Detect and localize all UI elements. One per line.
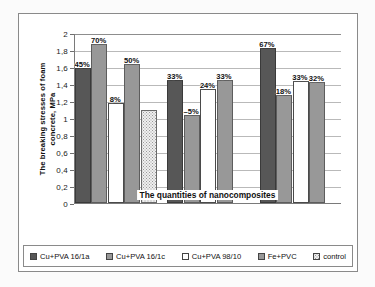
bar	[200, 89, 216, 203]
bar-value-label: 33%	[167, 72, 182, 81]
y-axis-tick	[70, 136, 74, 137]
legend-label: Cu+PVA 16/1c	[116, 252, 165, 261]
bar	[309, 82, 325, 203]
y-axis-tick	[70, 170, 74, 171]
legend-swatch-icon	[313, 253, 320, 260]
y-axis-tick	[70, 51, 74, 52]
y-axis-tick-label: 0,6	[56, 149, 68, 158]
y-axis-tick-label: 0,4	[56, 166, 68, 175]
bar	[167, 80, 183, 203]
bar-value-label: 33%	[216, 72, 231, 81]
plot-panel: 21,81,61,41,210,80,60,40,20 45%70%8%50%3…	[74, 34, 341, 204]
bar	[124, 64, 140, 203]
legend-item[interactable]: Cu+PVA 16/1c	[106, 252, 165, 261]
legend-swatch-icon	[106, 253, 113, 260]
legend: Cu+PVA 16/1aCu+PVA 16/1cCu+PVA 98/10Fe+P…	[23, 245, 353, 267]
legend-item[interactable]: control	[313, 252, 346, 261]
bar-value-label: 18%	[276, 87, 291, 96]
bar-value-label: 24%	[200, 81, 215, 90]
bar	[293, 81, 309, 203]
legend-label: Cu+PVA 98/10	[192, 252, 241, 261]
bar	[75, 68, 91, 203]
legend-label: Fe+PVC	[268, 252, 297, 261]
y-axis-tick	[70, 34, 74, 35]
legend-swatch-icon	[182, 253, 189, 260]
plot-area	[74, 34, 341, 204]
y-axis-tick	[70, 153, 74, 154]
bar	[91, 44, 107, 203]
legend-item[interactable]: Fe+PVC	[258, 252, 297, 261]
gridline	[75, 68, 341, 69]
chart-figure: The breaking stresses of foam concrete, …	[0, 0, 375, 287]
gridline	[75, 51, 341, 52]
x-axis-title: The quantities of nanocomposites	[137, 190, 279, 200]
legend-swatch-icon	[258, 253, 265, 260]
legend-label: Cu+PVA 16/1a	[40, 252, 89, 261]
y-axis-tick-label: 0	[63, 200, 68, 209]
y-axis-tick-label: 1	[63, 115, 68, 124]
y-axis-tick-label: 2	[63, 30, 68, 39]
y-axis-tick	[70, 85, 74, 86]
bar-value-label: 50%	[124, 56, 139, 65]
y-axis-tick-label: 1,6	[56, 64, 68, 73]
bar-value-label: 32%	[309, 74, 324, 83]
legend-label: control	[323, 252, 346, 261]
y-axis-tick-label: 1,8	[56, 47, 68, 56]
bar	[276, 95, 292, 203]
gridline	[75, 34, 341, 35]
bar-value-label: 8%	[110, 95, 121, 104]
legend-swatch-icon	[30, 253, 37, 260]
y-axis-tick	[70, 68, 74, 69]
y-axis-tick	[70, 102, 74, 103]
bar-value-label: 33%	[292, 73, 307, 82]
bar-value-label: –5%	[183, 107, 198, 116]
y-axis-tick	[70, 204, 74, 205]
bar-value-label: 45%	[75, 60, 90, 69]
y-axis-tick-label: 0,2	[56, 183, 68, 192]
y-axis-tick-label: 0,8	[56, 132, 68, 141]
y-axis-tick-label: 1,4	[56, 81, 68, 90]
bar	[217, 80, 233, 203]
figure-frame: The breaking stresses of foam concrete, …	[18, 13, 358, 272]
y-axis-tick-label: 1,2	[56, 98, 68, 107]
legend-item[interactable]: Cu+PVA 98/10	[182, 252, 241, 261]
bar	[260, 48, 276, 203]
bar-value-label: 70%	[91, 36, 106, 45]
y-axis-tick	[70, 187, 74, 188]
y-axis-tick	[70, 119, 74, 120]
bar	[108, 103, 124, 203]
y-axis-title-line1: The breaking stresses of foam	[38, 63, 47, 176]
y-axis-title: The breaking stresses of foam concrete, …	[33, 34, 63, 204]
legend-item[interactable]: Cu+PVA 16/1a	[30, 252, 89, 261]
bar-value-label: 67%	[259, 40, 274, 49]
